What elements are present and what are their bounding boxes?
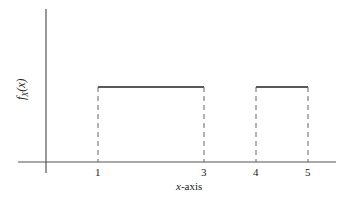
y-axis-label: fX(x) xyxy=(14,78,30,100)
dashed-verticals xyxy=(98,87,308,162)
pdf-diagram xyxy=(0,0,353,201)
tick-3: 3 xyxy=(201,166,207,178)
tick-5: 5 xyxy=(305,166,311,178)
tick-4: 4 xyxy=(253,166,259,178)
x-axis-label: x-axis xyxy=(176,180,202,192)
tick-1: 1 xyxy=(95,166,101,178)
